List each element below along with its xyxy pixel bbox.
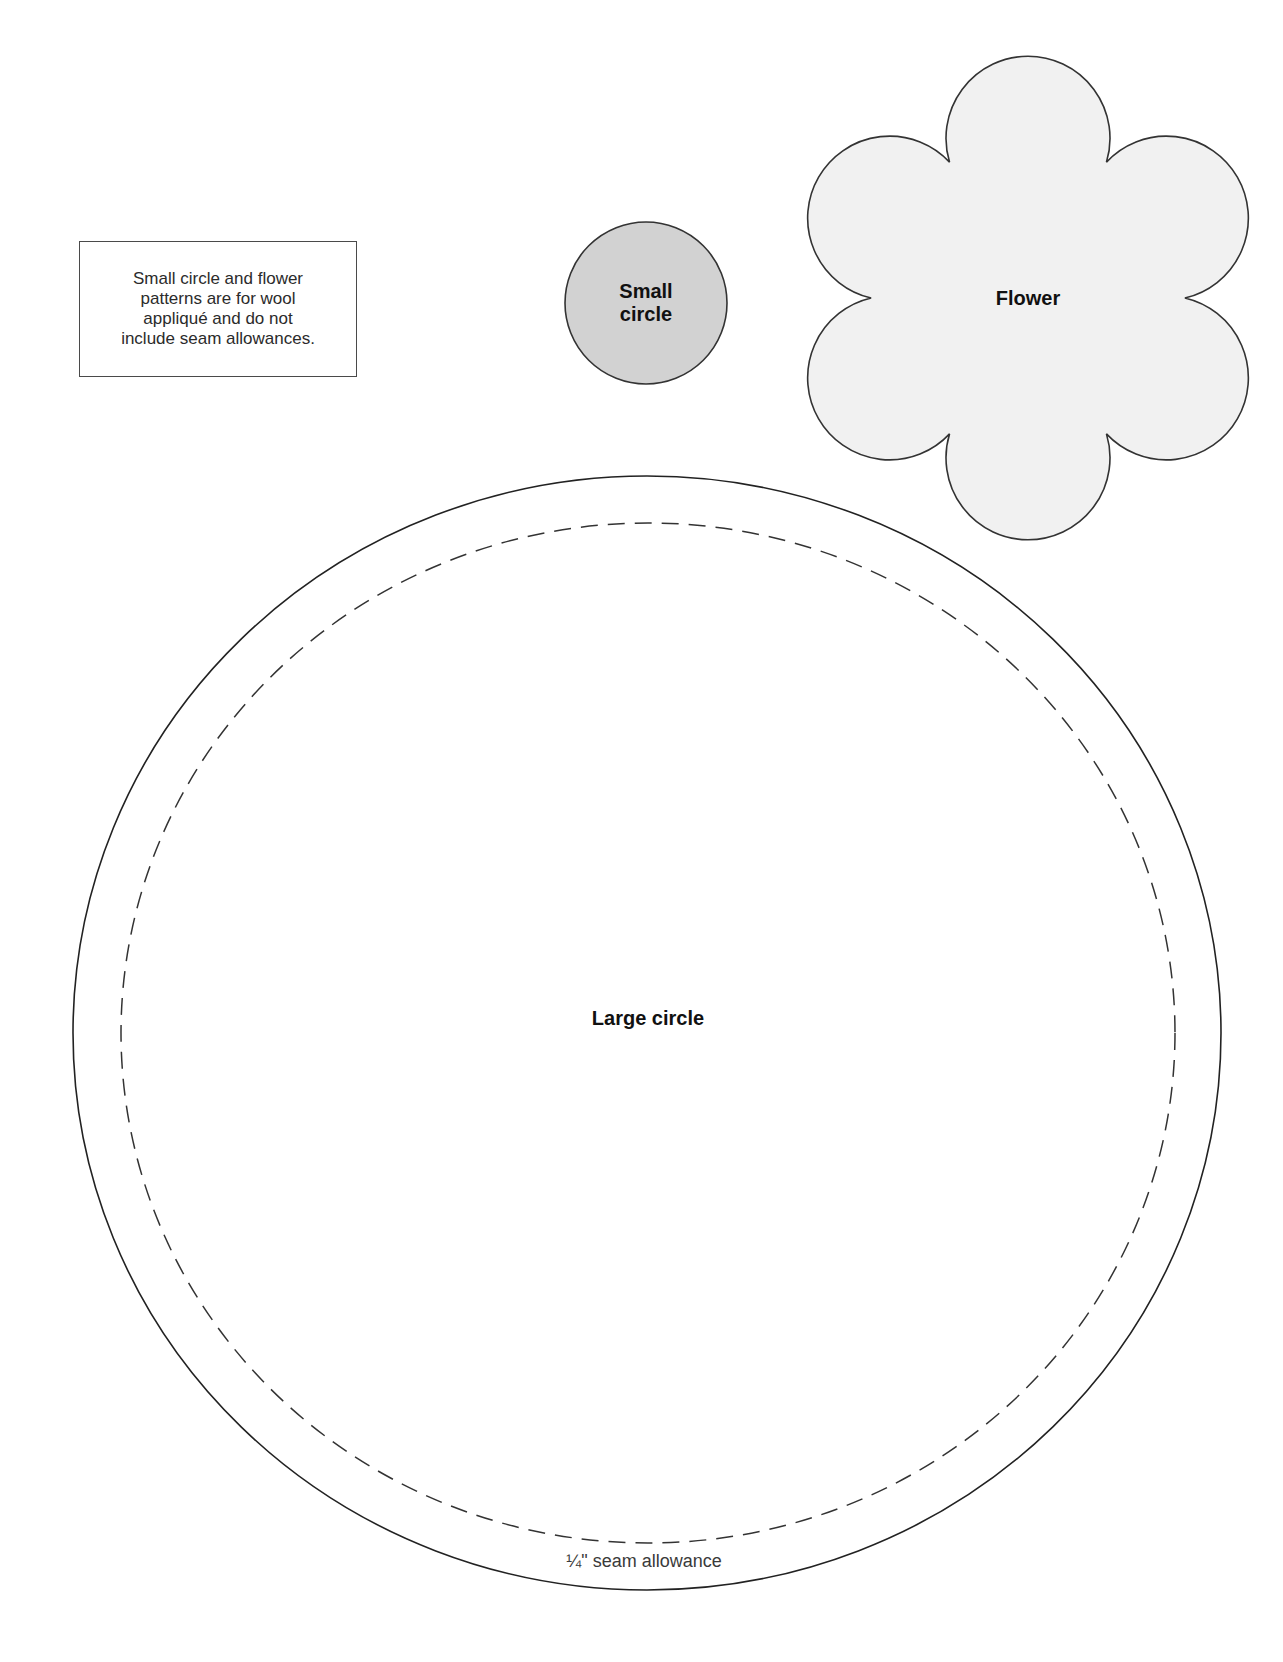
seam-allowance-label: ¼" seam allowance [566, 1551, 721, 1572]
instruction-note-box: Small circle and flower patterns are for… [79, 241, 357, 377]
instruction-note-text: Small circle and flower patterns are for… [113, 269, 323, 349]
flower-label: Flower [996, 287, 1060, 310]
small-circle-label: Small circle [619, 280, 672, 326]
large-circle-shape [73, 476, 1221, 1590]
large-circle-label: Large circle [592, 1007, 704, 1030]
